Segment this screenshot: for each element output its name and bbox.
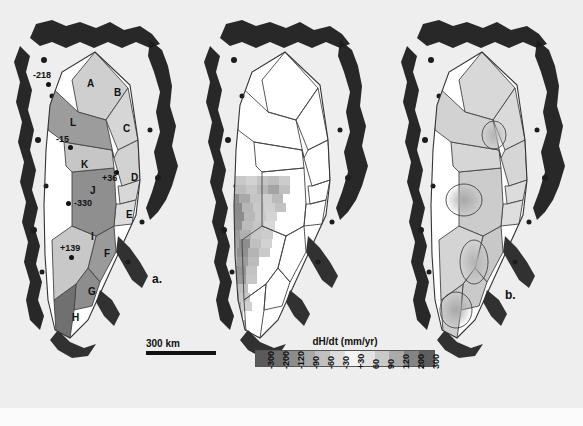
colorbar: dH/dt (mm/yr) -300-200-120-90-60-30+3060… — [255, 336, 435, 409]
point-annotation-15: -15 — [56, 135, 69, 144]
figure-canvas: A B C D E F G H I J K L -218 -15 +36 -33… — [0, 0, 583, 426]
basin-letter-F: F — [104, 249, 110, 259]
colorbar-tick: 200 — [416, 354, 426, 369]
grid-cell — [239, 293, 250, 302]
colorbar-tick: -200 — [281, 351, 291, 369]
point-annotation-218: -218 — [33, 71, 51, 80]
colorbar-tick-labels: -300-200-120-90-60-30+306090120200300 — [255, 369, 435, 409]
grid-cell — [242, 221, 253, 230]
grid-cell — [248, 248, 259, 257]
colorbar-tick: 90 — [386, 359, 396, 369]
grid-cell — [250, 194, 261, 203]
basin-letter-B: B — [114, 88, 121, 98]
colorbar-tick: 120 — [401, 354, 411, 369]
grid-cell — [235, 176, 246, 185]
grid-cell — [246, 185, 257, 194]
grid-cell — [250, 239, 261, 248]
grid-cell — [279, 176, 290, 185]
scale-bar-line — [146, 351, 216, 355]
basin-group-c — [433, 52, 527, 338]
point-marker-218 — [46, 82, 51, 87]
grid-cell — [242, 203, 253, 212]
colorbar-tick: 60 — [371, 359, 381, 369]
grid-cell — [279, 185, 290, 194]
basin-letter-J: J — [90, 186, 96, 196]
grid-cell — [225, 329, 236, 338]
grid-cell — [239, 239, 250, 248]
anomaly-blob-4 — [482, 121, 506, 149]
basin-letter-E: E — [126, 210, 133, 220]
grid-cell — [244, 212, 255, 221]
colorbar-tick: -60 — [326, 356, 336, 369]
grid-cell — [257, 185, 268, 194]
colorbar-tick: -90 — [311, 356, 321, 369]
grid-cell — [246, 176, 257, 185]
colorbar-tick: -120 — [296, 351, 306, 369]
point-marker-139 — [69, 255, 74, 260]
point-annotation-36: +36 — [102, 174, 117, 183]
grid-cell — [235, 185, 246, 194]
grid-cell — [246, 266, 257, 275]
basin-letter-L: L — [70, 118, 76, 128]
basin-letter-I: I — [91, 232, 94, 242]
grid-cell — [261, 194, 272, 203]
point-annotation-139: +139 — [60, 244, 80, 253]
bottom-white-strip — [0, 408, 583, 426]
grid-cell — [275, 203, 286, 212]
basin-letter-C: C — [123, 124, 130, 134]
point-marker-15 — [68, 145, 73, 150]
grid-cell — [248, 257, 259, 266]
grid-cell — [272, 194, 283, 203]
panel-label-a: a. — [152, 272, 162, 286]
grid-cell — [246, 275, 257, 284]
grid-cell — [257, 176, 268, 185]
basin-letter-H: H — [72, 313, 79, 323]
colorbar-title: dH/dt (mm/yr) — [255, 336, 435, 347]
grid-cell — [262, 230, 273, 239]
colorbar-tick: -30 — [341, 356, 351, 369]
grid-cell — [231, 221, 242, 230]
grid-cell — [268, 176, 279, 185]
basin-letter-D: D — [131, 173, 138, 183]
scale-bar: 300 km — [146, 338, 216, 355]
grid-cell — [224, 185, 235, 194]
grid-cell — [241, 302, 252, 311]
grid-cell — [239, 194, 250, 203]
grid-cell — [224, 176, 235, 185]
basin-letter-A: A — [87, 79, 94, 89]
grid-cell — [228, 194, 239, 203]
anomaly-blob-1 — [446, 184, 482, 216]
colorbar-tick: -300 — [266, 351, 276, 369]
grid-cell — [266, 212, 277, 221]
basin-letter-K: K — [81, 160, 88, 170]
colorbar-tick: +30 — [356, 354, 366, 369]
point-marker-36 — [114, 170, 119, 175]
colorbar-tick: 300 — [431, 354, 441, 369]
grid-cell — [231, 203, 242, 212]
grid-cell — [261, 239, 272, 248]
scale-bar-label: 300 km — [146, 338, 216, 349]
grid-cell — [259, 248, 270, 257]
grid-cell — [268, 185, 279, 194]
grid-cell — [251, 230, 262, 239]
point-marker-330 — [66, 201, 71, 206]
grid-cell — [255, 212, 266, 221]
grid-cell — [237, 284, 248, 293]
anomaly-blob-2 — [460, 240, 488, 284]
anomaly-blob-3 — [440, 292, 472, 328]
point-annotation-330: -330 — [74, 199, 92, 208]
grid-cell — [264, 203, 275, 212]
basin-letter-G: G — [88, 287, 96, 297]
